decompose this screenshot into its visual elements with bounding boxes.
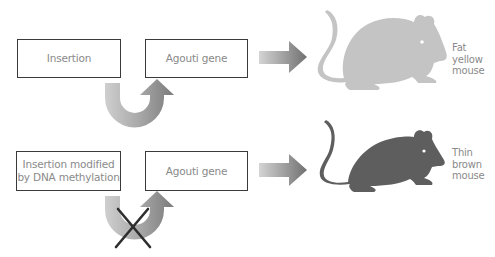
agouti-gene-box: Agouti gene (145, 39, 248, 78)
label-line: mouse (452, 65, 485, 77)
label-line: Thin (452, 147, 485, 159)
u-turn-arrow-blocked-icon (105, 191, 174, 239)
methylated-insertion-line-1: Insertion modified (23, 158, 115, 171)
label-line: brown (452, 159, 485, 171)
u-turn-arrow-icon (105, 79, 174, 127)
right-arrow-icon (259, 154, 307, 186)
agouti-gene-box-label: Agouti gene (166, 165, 227, 178)
label-line: mouse (452, 170, 485, 182)
thin-mouse-icon (320, 120, 445, 192)
fat-mouse-icon (318, 10, 447, 90)
agouti-gene-box-label: Agouti gene (166, 52, 227, 65)
right-arrow-icon (259, 41, 307, 73)
methylated-insertion-line-2: by DNA methylation (17, 171, 119, 184)
label-line: yellow (452, 54, 485, 66)
thin-brown-mouse-label: Thin brown mouse (452, 147, 485, 182)
methylated-insertion-box: Insertion modified by DNA methylation (16, 151, 121, 191)
fat-yellow-mouse-label: Fat yellow mouse (452, 42, 485, 77)
agouti-gene-box: Agouti gene (145, 151, 248, 191)
insertion-box-label: Insertion (47, 52, 91, 65)
label-line: Fat (452, 42, 485, 54)
insertion-box: Insertion (17, 39, 121, 78)
